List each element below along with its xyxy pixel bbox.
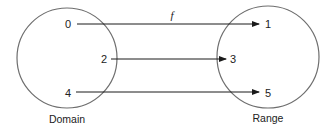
domain-element-2: 2 (101, 53, 107, 65)
function-label: f (170, 9, 175, 21)
domain-element-4: 4 (65, 87, 71, 99)
range-element-3: 3 (230, 53, 236, 65)
domain-label: Domain (49, 113, 85, 125)
range-element-1: 1 (265, 18, 271, 30)
range-element-5: 5 (265, 87, 271, 99)
function-diagram: 0 2 4 Domain 1 3 5 Range f (0, 0, 334, 129)
domain-set: 0 2 4 Domain (17, 8, 117, 125)
domain-element-0: 0 (65, 18, 71, 30)
range-label: Range (253, 112, 284, 124)
